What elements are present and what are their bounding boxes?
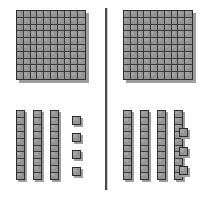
vertical-divider [105,8,107,190]
flat-unit-cell [65,25,72,32]
rod-unit-cell [124,166,131,173]
flat-unit-cell [44,11,51,18]
rod-unit-cell [141,139,148,146]
flat-unit-cell [172,45,179,52]
flat-unit-cell [158,45,165,52]
flat-unit-cell [131,52,138,59]
flat-unit-cell [65,65,72,72]
flat-unit-cell [24,52,31,59]
flat-unit-cell [51,72,58,79]
flat-unit-cell [165,25,172,32]
flat-unit-cell [151,72,158,79]
flat-unit-cell [151,25,158,32]
flat-unit-cell [144,52,151,59]
flat-unit-cell [151,59,158,66]
flat-unit-cell [51,38,58,45]
ones-unit-body [72,150,81,159]
flat-unit-cell [71,72,78,79]
flat-unit-cell [178,18,185,25]
rod-unit-cell [51,139,58,146]
flat-unit-cell [71,45,78,52]
flat-unit-cell [31,52,38,59]
rod-unit-cell [124,152,131,159]
rod-unit-cell [175,139,182,146]
flat-unit-cell [51,59,58,66]
flat-unit-cell [51,25,58,32]
ones-unit-body [179,147,188,156]
flat-unit-cell [165,45,172,52]
flat-unit-cell [151,65,158,72]
flat-unit-cell [151,52,158,59]
flat-unit-cell [138,38,145,45]
flat-unit-cell [37,11,44,18]
flat-unit-cell [58,25,65,32]
flat-unit-cell [151,45,158,52]
flat-unit-cell [78,25,85,32]
flat-unit-cell [78,72,85,79]
flat-unit-cell [17,18,24,25]
flat-unit-cell [24,65,31,72]
flat-unit-cell [138,45,145,52]
flat-unit-cell [178,38,185,45]
flat-unit-cell [172,65,179,72]
left-number-panel [0,0,107,203]
flat-unit-cell [17,59,24,66]
flat-unit-cell [24,45,31,52]
flat-unit-cell [185,45,192,52]
flat-unit-cell [44,52,51,59]
tens-rod-body [50,110,59,180]
flat-unit-cell [138,59,145,66]
flat-unit-cell [124,31,131,38]
flat-unit-cell [124,59,131,66]
flat-unit-cell [178,59,185,66]
flat-unit-cell [44,65,51,72]
rod-unit-cell [51,173,58,179]
flat-unit-cell [17,25,24,32]
flat-unit-cell [144,38,151,45]
flat-unit-cell [65,18,72,25]
tens-rod-body [33,110,42,180]
flat-unit-cell [71,11,78,18]
flat-unit-cell [58,72,65,79]
flat-unit-cell [71,25,78,32]
flat-unit-cell [37,18,44,25]
flat-unit-cell [58,52,65,59]
rod-unit-cell [124,111,131,118]
tens-rod [16,110,25,180]
flat-unit-cell [78,65,85,72]
rod-unit-cell [158,111,165,118]
tens-rod [33,110,42,180]
flat-unit-cell [124,11,131,18]
flat-unit-cell [44,25,51,32]
hundreds-flat [123,10,193,80]
flat-unit-cell [144,72,151,79]
tens-rod-body [16,110,25,180]
rod-unit-cell [17,118,24,125]
rod-unit-cell [175,118,182,125]
rod-unit-cell [141,166,148,173]
flat-unit-cell [185,65,192,72]
ones-unit-cube [179,147,188,156]
flat-unit-cell [71,65,78,72]
ones-unit-cube [179,128,188,137]
rod-unit-cell [51,146,58,153]
rod-unit-cell [17,159,24,166]
flat-unit-cell [131,45,138,52]
flat-unit-cell [31,18,38,25]
flat-unit-cell [138,31,145,38]
flat-unit-cell [44,72,51,79]
flat-unit-cell [17,72,24,79]
flat-unit-cell [71,59,78,66]
rod-unit-cell [34,159,41,166]
flat-unit-cell [58,11,65,18]
rod-unit-cell [141,125,148,132]
tens-rod-body [140,110,149,180]
rod-unit-cell [34,118,41,125]
flat-unit-cell [144,31,151,38]
ones-unit-body [72,116,81,125]
tens-rod-body [157,110,166,180]
flat-unit-cell [31,31,38,38]
flat-unit-cell [51,45,58,52]
flat-unit-cell [37,31,44,38]
flat-unit-cell [165,31,172,38]
